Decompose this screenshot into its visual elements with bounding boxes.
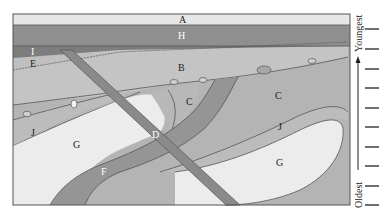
age-answer-blanks (365, 29, 379, 205)
age-youngest-label: Youngest (353, 14, 364, 52)
label-c-right: C (275, 90, 282, 101)
clast (199, 78, 207, 83)
label-g-left: G (73, 139, 80, 150)
clast (257, 66, 271, 74)
clast (23, 111, 31, 117)
clast (71, 100, 77, 108)
label-i: I (31, 46, 34, 57)
label-a: A (179, 14, 187, 25)
label-f: F (101, 166, 107, 177)
label-h: H (178, 30, 185, 41)
label-c-middle: C (186, 96, 193, 107)
age-oldest-label: Oldest (353, 182, 364, 208)
label-e: E (30, 58, 36, 69)
geologic-cross-section: A H I E B C C D F G G J J Youngest Oldes… (0, 0, 387, 216)
clast (170, 80, 178, 85)
label-j-right: J (278, 121, 282, 132)
label-b: B (178, 62, 185, 73)
label-d: D (152, 129, 159, 140)
label-j-left: J (31, 127, 35, 138)
clast (308, 59, 316, 64)
label-g-right: G (276, 157, 283, 168)
arrow-up-icon (356, 56, 361, 63)
